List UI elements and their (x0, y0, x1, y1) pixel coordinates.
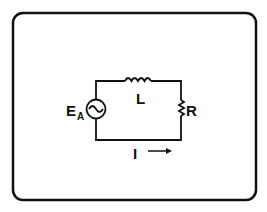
frame-border (13, 13, 256, 200)
inductor-coil (125, 78, 151, 81)
current-label: I (133, 145, 137, 162)
inductor-label: L (136, 90, 145, 107)
source-label: E (66, 102, 76, 119)
ac-source (87, 100, 106, 119)
resistor-zigzag (179, 100, 184, 116)
resistor-label: R (186, 102, 197, 119)
circuit-diagram: E A L R I (0, 0, 267, 212)
circuit-wires (96, 78, 184, 140)
source-subscript: A (77, 111, 84, 122)
current-arrow-icon (148, 148, 172, 154)
